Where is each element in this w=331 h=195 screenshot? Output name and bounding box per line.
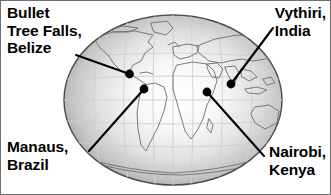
marker-label-nairobi-line2: Kenya: [269, 161, 326, 179]
marker-label-nairobi: Nairobi, Kenya: [269, 143, 326, 178]
marker-label-belize: Bullet Tree Falls, Belize: [7, 4, 82, 57]
marker-label-vythiri-line1: Vythiri,: [275, 4, 326, 22]
marker-label-belize-line2: Tree Falls,: [7, 22, 82, 40]
marker-label-vythiri-line2: India: [275, 22, 326, 40]
marker-label-manaus: Manaus, Brazil: [7, 138, 68, 173]
marker-label-nairobi-line1: Nairobi,: [269, 143, 326, 161]
marker-label-manaus-line1: Manaus,: [7, 138, 68, 156]
marker-label-belize-line3: Belize: [7, 39, 82, 57]
marker-label-vythiri: Vythiri, India: [275, 4, 326, 39]
marker-label-manaus-line2: Brazil: [7, 156, 68, 174]
marker-dot-belize[interactable]: [125, 70, 134, 79]
marker-dot-nairobi[interactable]: [203, 88, 212, 97]
world-map-figure: Bullet Tree Falls, Belize Vythiri, India…: [0, 0, 331, 195]
marker-dot-manaus[interactable]: [140, 85, 149, 94]
marker-label-belize-line1: Bullet: [7, 4, 82, 22]
marker-dot-vythiri[interactable]: [227, 80, 236, 89]
